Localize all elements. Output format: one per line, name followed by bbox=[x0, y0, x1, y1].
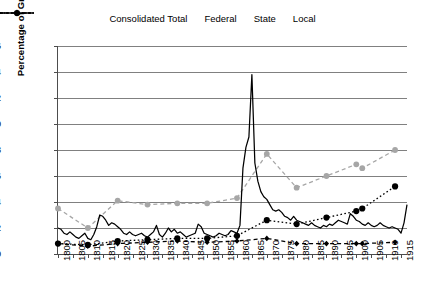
x-tick-mark-1845 bbox=[192, 254, 193, 258]
data-point bbox=[55, 206, 61, 212]
data-point bbox=[359, 205, 365, 211]
x-tick-mark-1840 bbox=[177, 254, 178, 258]
plot-area: Percentage of Gross Domestic Product 024… bbox=[57, 46, 406, 254]
x-tick-mark-1910 bbox=[386, 254, 387, 258]
x-tick-mark-1860 bbox=[237, 254, 238, 258]
legend-label-federal: Federal bbox=[204, 14, 236, 24]
data-point bbox=[353, 161, 359, 167]
data-point bbox=[294, 241, 299, 247]
x-tick-mark-1865 bbox=[252, 254, 253, 258]
data-point bbox=[392, 240, 397, 246]
data-point bbox=[324, 173, 330, 179]
y-tick-label-12: 12 bbox=[0, 93, 1, 103]
data-point bbox=[174, 235, 180, 241]
x-tick-mark-1915 bbox=[401, 254, 402, 258]
legend-label-consolidated-total: Consolidated Total bbox=[109, 14, 187, 24]
x-tick-mark-1825 bbox=[133, 254, 134, 258]
data-point bbox=[234, 233, 240, 239]
data-point bbox=[55, 241, 61, 247]
y-tick-label-2: 2 bbox=[0, 223, 1, 233]
series-consolidated-total bbox=[55, 147, 398, 231]
y-tick-label-6: 6 bbox=[0, 171, 1, 181]
data-point bbox=[145, 202, 151, 208]
data-point bbox=[204, 200, 210, 206]
x-tick-mark-1835 bbox=[162, 254, 163, 258]
series-federal bbox=[58, 75, 407, 240]
x-tick-mark-1900 bbox=[356, 254, 357, 258]
legend-item-local: Local bbox=[293, 14, 316, 24]
y-tick-label-10: 10 bbox=[0, 119, 1, 129]
data-point bbox=[174, 200, 180, 206]
y-tick-label-0: 0 bbox=[0, 249, 1, 259]
data-point bbox=[392, 147, 398, 153]
data-point bbox=[324, 241, 329, 247]
data-point bbox=[354, 241, 359, 247]
data-point bbox=[392, 183, 398, 189]
y-tick-label-14: 14 bbox=[0, 67, 1, 77]
data-point bbox=[234, 238, 239, 244]
data-point bbox=[264, 151, 270, 157]
x-tick-mark-1890 bbox=[326, 254, 327, 258]
data-point bbox=[144, 237, 150, 243]
y-tick-label-4: 4 bbox=[0, 197, 1, 207]
data-point bbox=[85, 225, 91, 231]
x-tick-mark-1885 bbox=[312, 254, 313, 258]
legend-label-local: Local bbox=[293, 14, 316, 24]
series-layer bbox=[58, 46, 407, 254]
data-point bbox=[353, 208, 359, 214]
x-tick-mark-1830 bbox=[147, 254, 148, 258]
data-point bbox=[294, 221, 300, 227]
data-point bbox=[264, 217, 270, 223]
x-tick-mark-1820 bbox=[118, 254, 119, 258]
data-point bbox=[115, 198, 121, 204]
x-tick-mark-1810 bbox=[88, 254, 89, 258]
chart-legend: Consolidated Total Federal State Local bbox=[0, 8, 425, 30]
data-point bbox=[115, 238, 121, 244]
y-axis-label: Percentage of Gross Domestic Product bbox=[14, 0, 28, 90]
data-point bbox=[204, 235, 210, 241]
data-point bbox=[294, 185, 300, 191]
legend-label-state: State bbox=[254, 14, 276, 24]
gdp-percentage-line-chart: Consolidated Total Federal State Local P… bbox=[0, 0, 425, 305]
data-point bbox=[234, 195, 240, 201]
x-tick-mark-1905 bbox=[371, 254, 372, 258]
x-tick-mark-1895 bbox=[341, 254, 342, 258]
y-tick-label-16: 16 bbox=[0, 41, 1, 51]
x-tick-mark-1870 bbox=[267, 254, 268, 258]
data-point bbox=[323, 215, 329, 221]
data-point bbox=[85, 242, 91, 248]
legend-item-federal: Federal bbox=[204, 14, 236, 24]
x-tick-mark-1875 bbox=[282, 254, 283, 258]
legend-item-consolidated-total: Consolidated Total bbox=[109, 14, 187, 24]
series-local bbox=[55, 183, 398, 248]
x-tick-mark-1855 bbox=[222, 254, 223, 258]
y-tick-label-8: 8 bbox=[0, 145, 1, 155]
x-tick-mark-1800 bbox=[58, 254, 59, 258]
x-tick-mark-1850 bbox=[207, 254, 208, 258]
legend-item-state: State bbox=[254, 14, 276, 24]
x-tick-mark-1880 bbox=[297, 254, 298, 258]
data-point bbox=[359, 165, 365, 171]
x-tick-mark-1805 bbox=[73, 254, 74, 258]
data-point bbox=[264, 236, 269, 242]
data-point bbox=[360, 241, 365, 247]
x-tick-mark-1815 bbox=[103, 254, 104, 258]
